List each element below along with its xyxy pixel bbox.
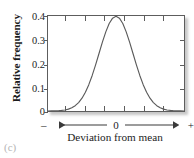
- y-tick-label-0.4: 0.4: [19, 12, 45, 22]
- figure-normal-distribution: Relative frequency 0.4 0.3 0.2 0.1 0: [0, 0, 194, 158]
- y-tick-mark-0.1: [44, 89, 49, 90]
- deviation-plus-sign: +: [188, 118, 194, 132]
- y-tick-mark-0: [44, 112, 49, 113]
- figure-caption: (c): [4, 141, 16, 153]
- y-tick-mark-0.3: [44, 40, 49, 41]
- y-tick-label-0.1: 0.1: [19, 84, 45, 94]
- x-tick-mark-bottom-5: [144, 106, 145, 111]
- x-tick-mark-top-2: [85, 16, 86, 21]
- x-tick-mark-top-6: [163, 16, 164, 21]
- normal-curve: [48, 16, 184, 111]
- y-tick-mark-right-0.1: [180, 89, 185, 90]
- x-tick-mark-top-1: [65, 16, 66, 21]
- x-tick-mark-top-4: [124, 16, 125, 21]
- y-tick-label-0.2: 0.2: [19, 60, 45, 70]
- x-tick-mark-bottom-2: [85, 106, 86, 111]
- deviation-axis: – 0 +: [47, 118, 185, 132]
- x-tick-mark-bottom-3: [104, 106, 105, 111]
- x-tick-mark-top-3: [104, 16, 105, 21]
- plot-inner: [48, 16, 184, 111]
- y-tick-label-0.3: 0.3: [19, 36, 45, 46]
- y-tick-mark-right-0.2: [180, 65, 185, 66]
- x-tick-mark-top-5: [144, 16, 145, 21]
- x-tick-mark-bottom-4: [124, 106, 125, 111]
- x-axis-title: Deviation from mean: [40, 131, 190, 143]
- y-tick-mark-0.4: [44, 16, 49, 17]
- y-tick-mark-0.2: [44, 65, 49, 66]
- deviation-zero-label: 0: [47, 118, 185, 132]
- plot-area: [47, 15, 185, 112]
- x-tick-mark-bottom-1: [65, 106, 66, 111]
- deviation-minus-sign: –: [41, 118, 47, 132]
- y-tick-mark-right-0.3: [180, 40, 185, 41]
- y-tick-label-0: 0: [19, 107, 45, 117]
- x-tick-mark-bottom-6: [163, 106, 164, 111]
